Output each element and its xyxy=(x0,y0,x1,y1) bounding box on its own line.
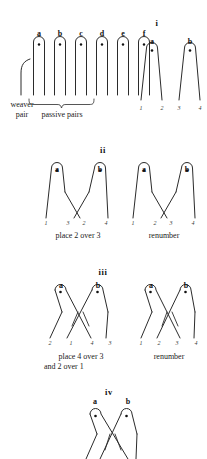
panel-iii-right-thread-3: 3 xyxy=(172,340,182,346)
panel-ii-left-label-b: b xyxy=(95,166,105,174)
inner-cross-a xyxy=(105,434,110,450)
panel-iii-left-thread-4: 3 xyxy=(105,340,115,346)
panel-i-thread-4: 4 xyxy=(195,105,205,111)
panel-i-thread-2: 2 xyxy=(157,105,167,111)
pin-label-d: d xyxy=(97,30,107,38)
panel-iii-right-diagram xyxy=(134,282,204,344)
pair-b-right-lower xyxy=(136,434,137,459)
panel-iii-right-caption: renumber xyxy=(134,352,204,362)
pair-a-left-lower xyxy=(86,434,97,459)
panel-iii-left-svg xyxy=(42,282,118,344)
panel-iii-left-label-a: a xyxy=(56,282,66,290)
pin-dot-a xyxy=(149,291,152,294)
pair-b-left-leg xyxy=(67,290,92,338)
pin-label-c: c xyxy=(76,30,86,38)
panel-ii-right-label-b: b xyxy=(182,166,192,174)
pair-b-left-leg xyxy=(100,414,121,459)
panel-iii-right-thread-1: 1 xyxy=(136,340,146,346)
panel-i-label-b: b xyxy=(185,38,195,46)
panel-ii-right-thread-1: 1 xyxy=(128,220,138,226)
pin-label-a: a xyxy=(34,30,44,38)
panel-i-roman: i xyxy=(150,19,164,28)
pin-dot-a xyxy=(59,291,62,294)
pin-dot-b xyxy=(96,291,99,294)
pair-a-left-upper xyxy=(145,290,152,312)
panel-ii-roman: ii xyxy=(95,146,111,155)
panel-iii-left-thread-2: 1 xyxy=(66,340,76,346)
pin-label-b: b xyxy=(55,30,65,38)
panel-iii-right-svg xyxy=(134,282,204,344)
pair-a-left-lower xyxy=(50,312,62,338)
panel-iv-diagram xyxy=(80,406,150,459)
panel-ii-left-thread-3: 2 xyxy=(79,220,89,226)
panel-i-label-a: a xyxy=(147,38,157,46)
thread-cross-right xyxy=(152,192,167,218)
panel-iv-label-b: b xyxy=(123,398,133,406)
weaver-pair-label-line1: weaver xyxy=(0,100,44,110)
thread-2-cross xyxy=(65,192,80,218)
panel-iv-roman: iv xyxy=(99,388,119,397)
panel-iii-right-thread-2: 2 xyxy=(154,340,164,346)
pin-dot-a xyxy=(151,49,154,52)
panel-i-thread-1: 1 xyxy=(136,105,146,111)
pin-label-e: e xyxy=(118,30,128,38)
panel-iii-left-label-b: b xyxy=(93,282,103,290)
panel-iii-right-label-b: b xyxy=(181,282,191,290)
pair-a-left-upper xyxy=(55,290,62,312)
panel-ii-right-caption: renumber xyxy=(129,231,199,241)
panel-ii-right-label-a: a xyxy=(139,166,149,174)
panel-ii-right-thread-3: 3 xyxy=(166,220,176,226)
thread-cross-left xyxy=(161,192,176,218)
panel-ii-right-thread-4: 4 xyxy=(188,220,198,226)
pin-dot-b xyxy=(189,49,192,52)
panel-ii-left-thread-2: 3 xyxy=(63,220,73,226)
pair-b-right-lower xyxy=(194,312,195,338)
pin-dot-b xyxy=(125,415,128,418)
panel-iii-right-label-a: a xyxy=(146,282,156,290)
panel-ii-left-thread-1: 1 xyxy=(41,220,51,226)
panel-iii-left-thread-3: 4 xyxy=(87,340,97,346)
panel-iii-right-thread-4: 4 xyxy=(191,340,201,346)
thread-3-cross xyxy=(74,192,89,218)
panel-iv-svg xyxy=(80,406,150,459)
panel-iii-left-diagram xyxy=(42,282,118,344)
panel-i-svg xyxy=(135,30,207,108)
pin-dot-a xyxy=(94,415,97,418)
pair-a-left-lower xyxy=(141,312,152,338)
panel-iii-roman: iii xyxy=(93,268,113,277)
panel-iii-left-thread-1: 2 xyxy=(45,340,55,346)
panel-ii-left-thread-4: 4 xyxy=(101,220,111,226)
panel-ii-left-caption: place 2 over 3 xyxy=(38,231,118,241)
panel-i-thread-3: 3 xyxy=(174,105,184,111)
passive-pairs-label: passive pairs xyxy=(27,110,97,120)
panel-iii-left-caption-line2: and 2 over 1 xyxy=(44,362,140,372)
panel-iii-left-caption-line1: place 4 over 3 xyxy=(33,352,129,362)
pair-b-right-lower xyxy=(106,312,108,338)
panel-i-diagram xyxy=(135,30,207,108)
panel-ii-left-label-a: a xyxy=(52,166,62,174)
pin-dot-b xyxy=(184,291,187,294)
inner-cross-b xyxy=(115,434,121,450)
panel-iv-label-a: a xyxy=(90,398,100,406)
panel-ii-right-thread-2: 2 xyxy=(150,220,160,226)
pair-b-right-upper xyxy=(121,409,137,435)
